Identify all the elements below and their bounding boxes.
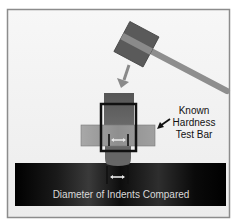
test-bar-label-line3: Test Bar	[176, 129, 213, 140]
test-bar-label-line1: Known	[179, 105, 210, 116]
indenter-contact	[106, 160, 130, 166]
diagram-canvas: Known Hardness Test Bar Diameter of Inde…	[0, 0, 235, 223]
holder-block	[104, 93, 134, 126]
bottom-caption: Diameter of Indents Compared	[53, 189, 190, 200]
test-bar-label-line2: Hardness	[173, 117, 216, 128]
test-bar	[81, 125, 155, 146]
